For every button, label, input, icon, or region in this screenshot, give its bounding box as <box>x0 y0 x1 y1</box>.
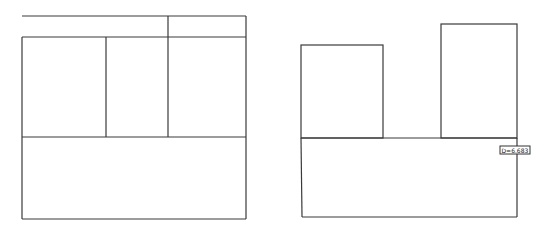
measurement-label[interactable]: D=6.683 <box>500 146 530 154</box>
left-layout <box>22 16 246 219</box>
right-right-tower <box>441 24 517 138</box>
right-left-edge <box>301 138 302 217</box>
measurement-label-text: D=6.683 <box>502 147 529 154</box>
right-left-tower <box>301 45 383 138</box>
diagram-canvas: D=6.683 <box>0 0 547 233</box>
right-layout: D=6.683 <box>301 24 530 217</box>
